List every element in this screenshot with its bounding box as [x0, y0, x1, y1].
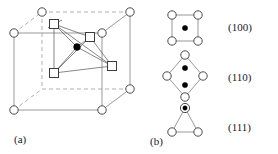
- panel-a-unit-cell: (a): [10, 8, 134, 146]
- atom-open-square: [50, 20, 59, 29]
- atom-open-circle: [168, 128, 176, 136]
- plane-label-111: (111): [228, 121, 251, 134]
- panel-b-label: (b): [150, 135, 163, 148]
- atom-open-circle: [126, 8, 134, 16]
- atom-open-circle: [194, 11, 202, 19]
- atom-filled-circle-interstitial: [182, 82, 187, 87]
- atom-open-circle: [194, 37, 202, 45]
- atom-open-circle: [10, 106, 18, 114]
- atom-open-circle: [98, 106, 106, 114]
- atom-open-circle: [38, 8, 46, 16]
- atom-open-circle: [181, 51, 189, 59]
- panel-a-label: (a): [14, 133, 27, 146]
- figure-container: (a) (100) (110: [0, 0, 278, 154]
- atom-open-square: [50, 69, 59, 78]
- atom-open-circle: [194, 128, 202, 136]
- atom-filled-circle-interstitial: [182, 65, 187, 70]
- crystal-structure-figure: (a) (100) (110: [0, 0, 278, 154]
- panel-b-plane-projections: (100) (110) (111): [150, 11, 252, 148]
- atom-open-circle: [181, 93, 189, 101]
- atom-open-circle: [168, 11, 176, 19]
- atom-open-square: [86, 33, 95, 42]
- atom-open-circle: [199, 72, 207, 80]
- plane-110-diagram: (110): [163, 51, 252, 101]
- atom-open-square: [108, 62, 117, 71]
- atom-open-circle: [163, 72, 171, 80]
- plane-100-diagram: (100): [168, 11, 252, 45]
- atom-open-circle: [168, 37, 176, 45]
- atom-open-circle: [10, 29, 18, 37]
- atom-filled-circle-interstitial: [183, 106, 187, 110]
- atom-filled-circle-interstitial: [74, 44, 81, 51]
- atom-filled-circle-interstitial: [182, 25, 187, 30]
- plane-label-100: (100): [228, 21, 252, 34]
- atom-open-circle: [98, 29, 106, 37]
- plane-111-diagram: (111): [168, 103, 252, 136]
- atom-open-circle: [126, 85, 134, 93]
- plane-label-110: (110): [228, 71, 252, 84]
